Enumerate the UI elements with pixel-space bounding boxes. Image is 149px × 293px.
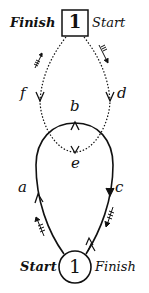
bottom-left-label: Start [20,260,57,273]
dotted-path-d [84,37,110,100]
top-right-label: Start [92,16,125,29]
path-label-a: a [18,180,27,195]
top-left-label: Finish [10,16,55,29]
path-label-b: b [70,99,80,114]
route-diagram [0,0,149,293]
direction-marker-left-top [34,53,42,68]
direction-marker-right-top [99,45,108,63]
dotted-path-f [40,37,66,100]
top-node-number: 1 [62,13,88,31]
arrow-c-icon [106,188,114,196]
path-label-d: d [117,86,127,101]
arrow-d-icon [106,92,114,101]
bottom-right-label: Finish [95,260,136,273]
arrow-f-icon [36,92,44,101]
path-label-e: e [71,156,80,171]
bottom-node-number: 1 [59,257,91,276]
path-label-c: c [115,180,123,195]
direction-marker-left-bottom [35,217,45,236]
path-label-f: f [20,86,26,101]
solid-loop-abc [36,123,113,254]
